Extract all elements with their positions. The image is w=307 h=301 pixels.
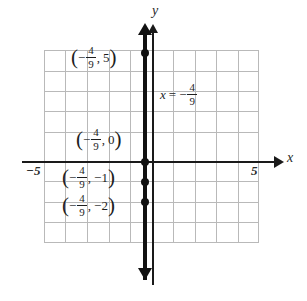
fraction-denominator: 9 bbox=[86, 59, 96, 70]
fraction-denominator: 9 bbox=[187, 96, 197, 107]
grid-vline bbox=[238, 50, 239, 243]
y-axis bbox=[152, 32, 154, 285]
left-paren: ( bbox=[76, 131, 83, 149]
grid-vline bbox=[130, 50, 131, 243]
grid-vline bbox=[44, 50, 45, 243]
graphed-line-arrow-up-icon bbox=[138, 23, 152, 35]
plotted-point bbox=[141, 198, 149, 206]
fraction-denominator: 9 bbox=[77, 207, 87, 218]
comma: , bbox=[97, 51, 100, 64]
plotted-point bbox=[141, 178, 149, 186]
x-tick-negative-5: −5 bbox=[26, 163, 40, 179]
equation-label: x = − 4 9 bbox=[160, 82, 198, 107]
left-paren: ( bbox=[62, 169, 69, 187]
grid-vline bbox=[258, 50, 259, 243]
y-axis-label: y bbox=[152, 3, 158, 19]
right-paren: ) bbox=[110, 49, 117, 67]
point-label-0-neg1: ( − 4 9 , −1 ) bbox=[62, 165, 115, 190]
point-label-0-neg2: ( − 4 9 , −2 ) bbox=[62, 193, 115, 218]
point-label-0-5: ( − 4 9 , 5 ) bbox=[71, 45, 117, 70]
plotted-point bbox=[141, 158, 149, 166]
fraction-4-9: 4 9 bbox=[187, 82, 197, 107]
fraction-numerator: 4 bbox=[91, 127, 101, 138]
left-paren: ( bbox=[71, 49, 78, 67]
x-tick-positive-5: 5 bbox=[251, 163, 258, 179]
y-coordinate: −1 bbox=[94, 171, 108, 184]
graph-figure: x y −5 5 ( − 4 9 , 5 ) ( − 4 9 , 0 ) ( − bbox=[0, 0, 307, 301]
graphed-vertical-line bbox=[143, 33, 147, 280]
minus-sign: − bbox=[83, 133, 90, 146]
x-axis-label: x bbox=[287, 150, 293, 166]
right-paren: ) bbox=[108, 197, 115, 215]
comma: , bbox=[102, 133, 105, 146]
x-axis-arrow-icon bbox=[274, 156, 284, 168]
right-paren: ) bbox=[115, 131, 122, 149]
fraction-4-9: 4 9 bbox=[77, 165, 87, 190]
minus-sign: − bbox=[69, 171, 76, 184]
minus-sign: − bbox=[78, 51, 85, 64]
minus-sign: − bbox=[179, 88, 186, 101]
fraction-numerator: 4 bbox=[86, 45, 96, 56]
plotted-point bbox=[141, 49, 149, 57]
x-axis bbox=[22, 161, 277, 163]
fraction-4-9: 4 9 bbox=[77, 193, 87, 218]
fraction-denominator: 9 bbox=[77, 179, 87, 190]
point-label-0-0: ( − 4 9 , 0 ) bbox=[76, 127, 122, 152]
comma: , bbox=[88, 199, 91, 212]
minus-sign: − bbox=[69, 199, 76, 212]
right-paren: ) bbox=[108, 169, 115, 187]
y-coordinate: −2 bbox=[94, 199, 108, 212]
fraction-denominator: 9 bbox=[91, 141, 101, 152]
fraction-numerator: 4 bbox=[187, 82, 197, 93]
left-paren: ( bbox=[62, 197, 69, 215]
graphed-line-arrow-down-icon bbox=[138, 268, 152, 280]
fraction-numerator: 4 bbox=[77, 165, 87, 176]
fraction-numerator: 4 bbox=[77, 193, 87, 204]
equals-sign: = bbox=[169, 88, 176, 101]
fraction-4-9: 4 9 bbox=[86, 45, 96, 70]
grid-vline bbox=[216, 50, 217, 243]
grid-vline bbox=[195, 50, 196, 243]
fraction-4-9: 4 9 bbox=[91, 127, 101, 152]
comma: , bbox=[88, 171, 91, 184]
grid-vline bbox=[173, 50, 174, 243]
equation-variable: x bbox=[160, 88, 166, 101]
